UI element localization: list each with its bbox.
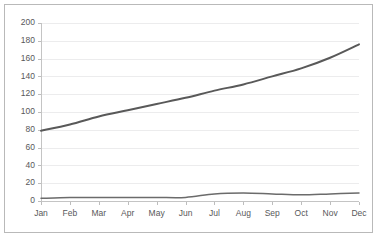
x-tick-label-jun: Jun [179, 208, 193, 218]
x-tick-label-oct: Oct [295, 208, 309, 218]
y-tick-label-180: 180 [21, 35, 35, 45]
y-axis-tick-labels: 020406080100120140160180200 [21, 17, 35, 205]
series-line-2 [41, 193, 359, 198]
line-chart-svg: 020406080100120140160180200 JanFebMarApr… [5, 5, 374, 234]
chart-frame: 020406080100120140160180200 JanFebMarApr… [4, 4, 373, 233]
x-tick-label-aug: Aug [236, 208, 251, 218]
x-tick-label-may: May [149, 208, 166, 218]
x-tick-label-feb: Feb [63, 208, 78, 218]
series-line-1 [41, 44, 359, 130]
y-tick-label-100: 100 [21, 106, 35, 116]
x-tick-label-jul: Jul [209, 208, 220, 218]
y-tick-label-60: 60 [26, 142, 36, 152]
x-tick-label-sep: Sep [265, 208, 280, 218]
x-tick-label-dec: Dec [351, 208, 367, 218]
chart-plot-area: 020406080100120140160180200 JanFebMarApr… [5, 5, 374, 234]
y-tick-label-140: 140 [21, 71, 35, 81]
data-series-group [41, 44, 359, 198]
y-tick-label-20: 20 [26, 177, 36, 187]
y-tick-label-80: 80 [26, 124, 36, 134]
y-tick-label-40: 40 [26, 160, 36, 170]
x-tick-label-jan: Jan [34, 208, 48, 218]
axes-group [38, 23, 360, 205]
x-axis-tick-labels: JanFebMarAprMayJunJulAugSepOctNovDec [34, 208, 367, 218]
y-tick-label-200: 200 [21, 17, 35, 27]
x-tick-label-mar: Mar [91, 208, 106, 218]
x-tick-label-apr: Apr [121, 208, 134, 218]
y-tick-label-0: 0 [30, 195, 35, 205]
y-tick-label-120: 120 [21, 88, 35, 98]
x-tick-label-nov: Nov [323, 208, 339, 218]
gridlines-group [41, 24, 359, 184]
y-tick-label-160: 160 [21, 53, 35, 63]
